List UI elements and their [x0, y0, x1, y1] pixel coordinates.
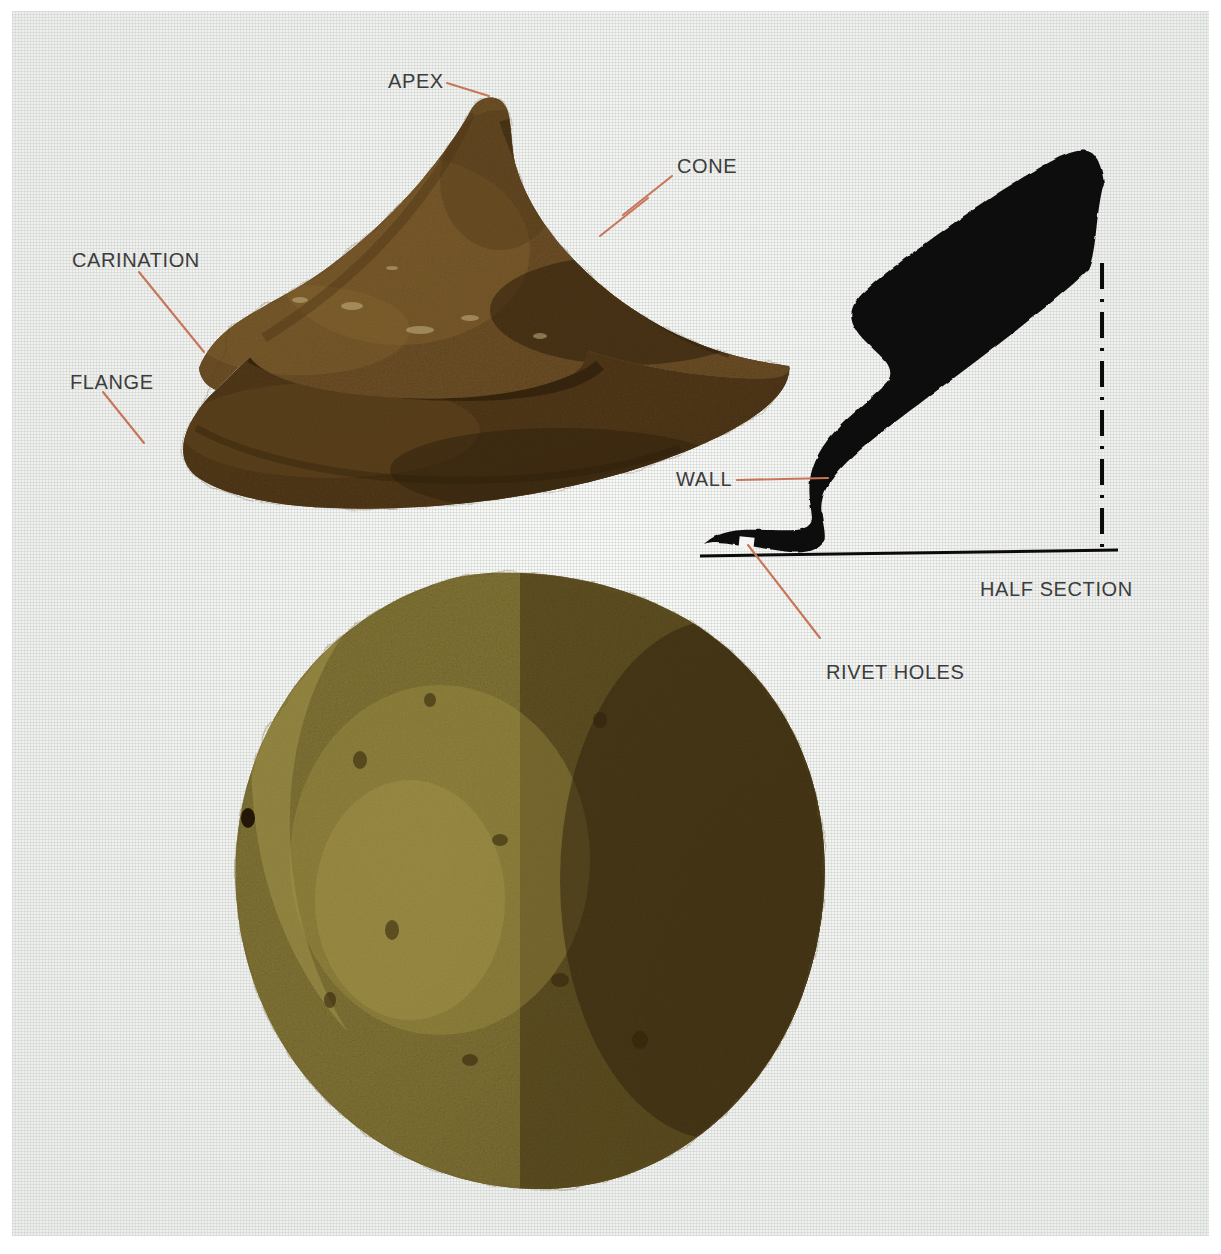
rivet-hole-lower — [204, 1028, 228, 1052]
half-section-profile-drawing — [700, 150, 1118, 556]
label-flange: FLANGE — [70, 371, 154, 394]
leader-rivet-holes — [748, 545, 820, 638]
leader-apex — [447, 83, 489, 96]
leader-carination — [139, 272, 204, 352]
label-apex: APEX — [388, 70, 444, 93]
label-carination: CARINATION — [72, 249, 200, 272]
rivet-hole-upper-2 — [241, 808, 255, 828]
leader-cone-a — [623, 176, 672, 215]
label-wall: WALL — [676, 468, 732, 491]
label-rivet-holes: RIVET HOLES — [826, 661, 965, 684]
leader-cone-b — [600, 198, 648, 236]
annotated-plate: APEX CONE CARINATION FLANGE WALL RIVET H… — [0, 0, 1221, 1254]
rivet-hole-gap — [738, 536, 754, 550]
label-half-section: HALF SECTION — [980, 578, 1133, 601]
leader-flange — [103, 392, 144, 443]
label-cone: CONE — [677, 155, 737, 178]
artwork-layer — [0, 0, 1221, 1254]
plan-view-photograph — [204, 560, 880, 1210]
rivet-hole-upper — [204, 811, 220, 833]
section-baseline — [700, 550, 1118, 556]
